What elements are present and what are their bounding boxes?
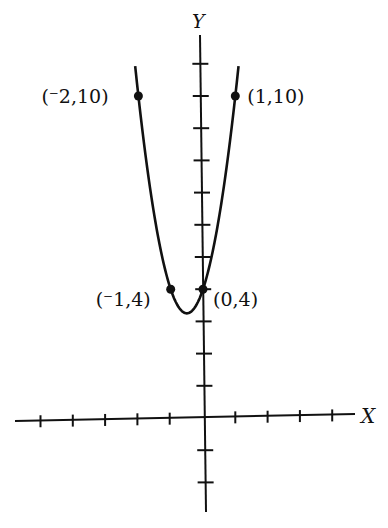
point-label: (⁻2,10) [41,85,108,107]
point-label: (0,4) [213,288,258,310]
y-axis [200,35,206,512]
data-point [134,92,143,101]
data-point [166,285,175,294]
data-point [231,92,240,101]
y-axis-label: Y [192,10,207,32]
parabola-curve [135,66,238,313]
point-label: (1,10) [247,85,304,107]
x-axis [15,414,355,421]
data-point [199,285,208,294]
data-points: (⁻2,10)(1,10)(⁻1,4)(0,4) [41,85,304,310]
point-label: (⁻1,4) [96,288,151,310]
parabola-chart: (⁻2,10)(1,10)(⁻1,4)(0,4) X Y [0,0,388,528]
x-axis-label: X [359,404,376,428]
